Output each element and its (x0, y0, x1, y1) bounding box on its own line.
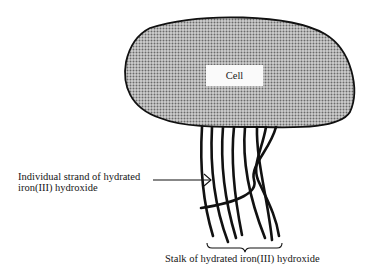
cell-stalk-diagram (0, 0, 376, 274)
strand-annotation-line2: iron(III) hydroxide (18, 182, 140, 193)
stalk-annotation: Stalk of hydrated iron(III) hydroxide (165, 253, 320, 264)
strand-annotation-line1: Individual strand of hydrated (18, 171, 140, 182)
stalk-strands (201, 127, 279, 242)
strand-annotation: Individual strand of hydrated iron(III) … (18, 171, 140, 193)
stalk-brace (207, 243, 282, 252)
cell-label: Cell (206, 65, 263, 86)
strand-4 (233, 127, 242, 235)
